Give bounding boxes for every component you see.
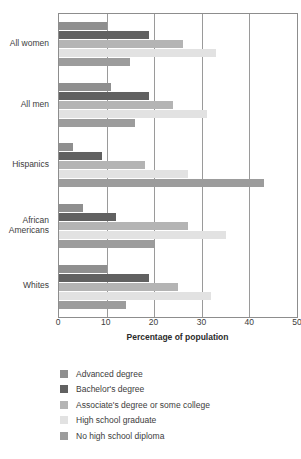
bar-row — [59, 161, 297, 169]
bar — [59, 92, 149, 100]
bar-row — [59, 58, 297, 66]
bar — [59, 222, 188, 230]
bar-row — [59, 222, 297, 230]
bar — [59, 301, 126, 309]
bar — [59, 110, 207, 118]
bar — [59, 161, 145, 169]
plot-area — [58, 13, 298, 318]
bar-row — [59, 31, 297, 39]
bar-row — [59, 301, 297, 309]
bar-row — [59, 119, 297, 127]
bar-row — [59, 292, 297, 300]
bar-row — [59, 283, 297, 291]
legend-swatch — [60, 416, 68, 424]
x-tick-label: 50 — [292, 317, 301, 327]
plot-wrapper: All womenAll menHispanicsAfrican America… — [0, 0, 301, 340]
legend-swatch — [60, 385, 68, 393]
bar — [59, 265, 107, 273]
bar — [59, 58, 130, 66]
category-axis-labels: All womenAll menHispanicsAfrican America… — [0, 13, 54, 316]
bar-row — [59, 83, 297, 91]
bar-group — [59, 256, 297, 317]
legend-label: Bachelor's degree — [76, 384, 144, 394]
bar-row — [59, 92, 297, 100]
legend-label: Associate's degree or some college — [76, 400, 210, 410]
bar — [59, 22, 107, 30]
bar-row — [59, 110, 297, 118]
bar — [59, 119, 135, 127]
education-attainment-bar-chart: All womenAll menHispanicsAfrican America… — [0, 0, 301, 459]
category-label: African Americans — [0, 195, 54, 256]
x-tick-label: 10 — [101, 317, 110, 327]
x-axis-title: Percentage of population — [58, 332, 297, 342]
chart-legend: Advanced degreeBachelor's degreeAssociat… — [60, 366, 295, 444]
bar-row — [59, 274, 297, 282]
legend-label: No high school diploma — [76, 431, 164, 441]
category-label: All women — [0, 13, 54, 74]
bar — [59, 31, 149, 39]
category-label: Whites — [0, 255, 54, 316]
bar — [59, 152, 102, 160]
bar-group — [59, 135, 297, 196]
legend-item[interactable]: Associate's degree or some college — [60, 397, 295, 413]
bar-row — [59, 49, 297, 57]
bar — [59, 101, 173, 109]
bar — [59, 179, 264, 187]
x-tick-label: 40 — [244, 317, 253, 327]
bar-row — [59, 170, 297, 178]
legend-item[interactable]: No high school diploma — [60, 428, 295, 444]
category-label: All men — [0, 74, 54, 135]
x-tick-label: 30 — [197, 317, 206, 327]
bar — [59, 292, 211, 300]
bar-row — [59, 231, 297, 239]
bar-row — [59, 143, 297, 151]
x-axis-ticks: 01020304050 — [58, 317, 297, 331]
bar-group — [59, 75, 297, 136]
legend-swatch — [60, 370, 68, 378]
legend-label: High school graduate — [76, 415, 156, 425]
bar-row — [59, 22, 297, 30]
bar — [59, 283, 178, 291]
bar-row — [59, 179, 297, 187]
bar — [59, 49, 216, 57]
legend-swatch — [60, 432, 68, 440]
category-label: Hispanics — [0, 134, 54, 195]
bar — [59, 143, 73, 151]
bar-group — [59, 14, 297, 75]
bar — [59, 213, 116, 221]
bar — [59, 231, 226, 239]
bar-row — [59, 101, 297, 109]
bar-group — [59, 196, 297, 257]
bar — [59, 274, 149, 282]
legend-item[interactable]: Bachelor's degree — [60, 382, 295, 398]
bar-row — [59, 265, 297, 273]
legend-item[interactable]: High school graduate — [60, 413, 295, 429]
bar — [59, 83, 111, 91]
bar-row — [59, 240, 297, 248]
x-tick-label: 0 — [56, 317, 61, 327]
bar-row — [59, 204, 297, 212]
bar-groups — [59, 14, 297, 317]
legend-item[interactable]: Advanced degree — [60, 366, 295, 382]
legend-swatch — [60, 401, 68, 409]
bar — [59, 40, 183, 48]
bar — [59, 170, 188, 178]
bar-row — [59, 213, 297, 221]
bar — [59, 204, 83, 212]
bar-row — [59, 152, 297, 160]
bar — [59, 240, 154, 248]
legend-label: Advanced degree — [76, 369, 143, 379]
bar-row — [59, 40, 297, 48]
x-tick-label: 20 — [149, 317, 158, 327]
